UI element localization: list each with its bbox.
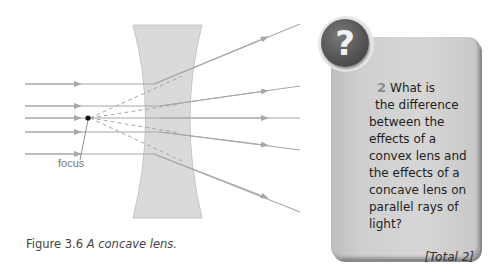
question-line-7: concave lens on	[369, 182, 479, 199]
question-line-3: between the	[369, 114, 479, 131]
concave-lens	[133, 25, 202, 218]
question-line-4: effects of a	[369, 131, 479, 148]
question-line-2: the difference	[369, 97, 479, 114]
focus-point	[85, 115, 90, 120]
figure-number: Figure 3.6	[26, 237, 83, 251]
question-line-1: 2What is	[369, 79, 479, 97]
question-line-9: light?	[369, 216, 479, 233]
question-line-6: the effects of a	[369, 165, 479, 182]
question-mark-icon: ?	[321, 19, 369, 67]
question-line-8: parallel rays of	[369, 199, 479, 216]
question-text: 2What is the difference between the effe…	[369, 79, 479, 233]
question-line-text: What is	[390, 81, 435, 95]
question-number: 2	[377, 80, 386, 95]
figure-caption: Figure 3.6 A concave lens.	[26, 237, 177, 251]
question-line-5: convex lens and	[369, 148, 479, 165]
focus-label: focus	[58, 157, 84, 169]
figure-caption-text: A concave lens.	[87, 237, 177, 251]
question-total-marks: [Total 2]	[369, 249, 474, 266]
